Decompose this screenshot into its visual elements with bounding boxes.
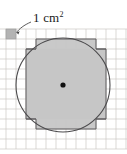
area-label: 1 cm2 <box>33 11 64 24</box>
figure-container: 1 cm2 <box>0 0 127 154</box>
area-label-exponent: 2 <box>59 10 63 19</box>
one-square-centimetre <box>6 29 16 39</box>
circle-centre-dot <box>60 82 65 87</box>
leader-line <box>17 22 32 34</box>
shaded-area <box>26 39 106 129</box>
area-label-value: 1 cm <box>33 10 59 25</box>
